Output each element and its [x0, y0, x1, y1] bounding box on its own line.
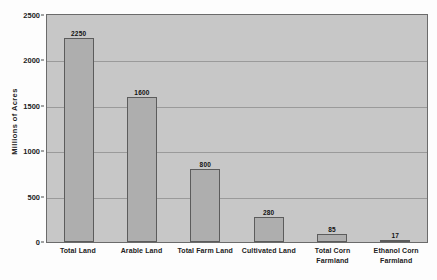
bar-value-label: 280 [263, 209, 274, 216]
bar-slot: 85 [300, 15, 363, 242]
x-category-label: Total Land [46, 246, 110, 256]
bar[interactable]: 85 [317, 234, 347, 242]
y-tick-mark [41, 105, 44, 106]
bar[interactable]: 17 [380, 240, 410, 242]
bar-value-label: 2250 [71, 30, 86, 37]
x-category-label: Ethanol CornFarmland [364, 246, 428, 265]
bar-slot: 1600 [110, 15, 173, 242]
y-tick-label: 500 [27, 192, 40, 201]
y-tick-mark [41, 15, 44, 16]
plot-area: 225016008002808517 [46, 14, 428, 243]
bar-slot: 2250 [47, 15, 110, 242]
y-tick-label: 2500 [23, 11, 40, 20]
x-category-label: Total CornFarmland [301, 246, 365, 265]
y-tick-label: 2000 [23, 56, 40, 65]
y-tick-mark [41, 60, 44, 61]
bar[interactable]: 280 [254, 217, 284, 242]
y-tick-mark [41, 151, 44, 152]
y-tick-label: 1500 [23, 101, 40, 110]
y-tick-mark [41, 242, 44, 243]
bar-slot: 280 [237, 15, 300, 242]
bar-slot: 800 [174, 15, 237, 242]
bar-value-label: 1600 [134, 89, 149, 96]
x-category-label: Cultivated Land [237, 246, 301, 256]
bar-chart-figure: Millions of Acres 05001000150020002500 2… [0, 0, 437, 280]
bar[interactable]: 1600 [127, 97, 157, 242]
y-axis-title-text: Millions of Acres [10, 88, 19, 155]
y-tick-mark [41, 196, 44, 197]
x-axis-labels: Total LandArable LandTotal Farm LandCult… [46, 246, 428, 276]
bar-value-label: 85 [328, 226, 336, 233]
bar-series: 225016008002808517 [47, 15, 427, 242]
bar[interactable]: 2250 [64, 38, 94, 242]
bar-slot: 17 [364, 15, 427, 242]
y-tick-label: 1000 [23, 147, 40, 156]
bar-value-label: 17 [391, 232, 399, 239]
y-axis-ticks: 05001000150020002500 [20, 14, 44, 243]
x-category-label: Total Farm Land [173, 246, 237, 256]
bar[interactable]: 800 [190, 169, 220, 242]
bar-value-label: 800 [200, 161, 211, 168]
x-category-label: Arable Land [110, 246, 174, 256]
y-tick-label: 0 [36, 238, 40, 247]
